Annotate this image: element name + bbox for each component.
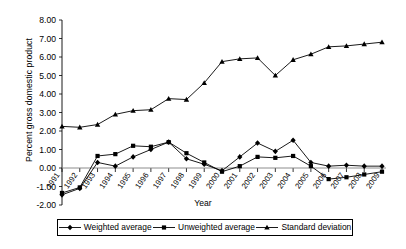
data-point: [273, 149, 278, 155]
data-point: [95, 122, 100, 127]
data-point: [255, 155, 259, 159]
x-tick-label: 1995: [115, 170, 133, 190]
data-point: [380, 170, 384, 174]
data-point: [60, 191, 64, 195]
y-tick-label: 5.00: [39, 71, 56, 81]
y-tick-label: 2.00: [39, 126, 56, 136]
data-point: [184, 151, 188, 155]
data-point: [220, 170, 224, 174]
data-point: [78, 185, 82, 189]
legend-label: Unweighted average: [178, 223, 255, 231]
data-point: [202, 160, 206, 164]
x-tick-label: 2002: [240, 171, 257, 190]
x-tick-label: 1996: [133, 171, 150, 190]
chart-legend: Weighted averageUnweighted averageStanda…: [57, 219, 353, 236]
y-tick-label: 6.00: [39, 52, 56, 62]
x-tick-label: 1998: [169, 171, 186, 190]
y-tick-label: 7.00: [39, 34, 56, 44]
data-point: [309, 164, 313, 168]
y-tick-label: 4.00: [39, 89, 56, 99]
legend-label: Weighted average: [84, 223, 152, 231]
legend-diamond-marker-icon: [59, 223, 81, 232]
x-tick-label: 2001: [222, 171, 239, 190]
data-point: [149, 145, 153, 149]
data-point: [131, 154, 136, 160]
x-tick-label: 2000: [204, 170, 222, 190]
y-tick-label: -2.00: [36, 200, 56, 210]
data-point: [167, 140, 171, 144]
data-point: [327, 177, 331, 181]
legend-entry-unweighted-average[interactable]: Unweighted average: [153, 223, 255, 232]
x-tick-label: 2006: [311, 171, 328, 190]
y-tick-label: 1.00: [39, 145, 56, 155]
x-tick-label: 2008: [347, 171, 364, 190]
x-tick-label: 1999: [187, 171, 204, 190]
data-point: [344, 175, 348, 179]
data-point: [379, 40, 384, 45]
x-tick-label: 2004: [275, 170, 293, 190]
plot-area: 8.007.006.005.004.003.002.001.000.00-1.0…: [0, 0, 406, 249]
legend-entry-standard-deviation[interactable]: Standard deviation: [256, 223, 351, 232]
data-point: [291, 154, 295, 158]
data-point: [131, 144, 135, 148]
x-tick-label: 2007: [329, 171, 346, 190]
x-tick-label: 1997: [151, 171, 168, 190]
series-standard-deviation: [59, 40, 384, 130]
x-tick-label: 2003: [258, 171, 275, 190]
data-point: [238, 164, 242, 168]
x-tick-label: 2005: [293, 170, 311, 190]
chart-figure: Percent gross domestic product Year 8.00…: [0, 0, 406, 249]
x-tick-label: 1991: [44, 171, 61, 190]
data-point: [113, 152, 117, 156]
x-tick-label: 1992: [62, 171, 79, 190]
data-point: [95, 154, 99, 158]
data-point: [308, 52, 313, 57]
y-tick-label: 3.00: [39, 108, 56, 118]
legend-square-marker-icon: [153, 223, 175, 232]
data-point: [344, 162, 349, 168]
legend-entry-weighted-average[interactable]: Weighted average: [59, 223, 152, 232]
legend-label: Standard deviation: [281, 223, 351, 231]
x-tick-label-group: 1991199219931994199519961997199819992000…: [44, 170, 381, 190]
x-tick-label: 1993: [80, 171, 97, 190]
legend-triangle-marker-icon: [256, 223, 278, 232]
x-tick-label: 1994: [98, 170, 116, 190]
data-point: [273, 156, 277, 160]
series-line: [62, 42, 382, 127]
y-tick-label: 8.00: [39, 15, 56, 25]
data-point: [362, 172, 366, 176]
